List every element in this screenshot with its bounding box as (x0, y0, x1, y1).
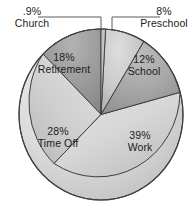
church-label: .9% Church (2, 6, 62, 29)
school-percent: 12% (118, 54, 170, 66)
time-off-label: 28% Time Off (22, 126, 94, 149)
time-off-category: Time Off (22, 138, 94, 150)
church-category: Church (2, 18, 62, 30)
preschool-percent: 8% (134, 6, 194, 18)
time-off-percent: 28% (22, 126, 94, 138)
retirement-percent: 18% (26, 52, 102, 64)
school-category: School (118, 66, 170, 78)
preschool-category: Preschool (134, 18, 194, 30)
retirement-label: 18% Retirement (26, 52, 102, 75)
school-label: 12% School (118, 54, 170, 77)
preschool-label: 8% Preschool (134, 6, 194, 29)
work-category: Work (115, 142, 165, 154)
pie-chart: .9% Church 8% Preschool 18% Retirement 1… (0, 0, 196, 214)
retirement-category: Retirement (26, 64, 102, 76)
work-percent: 39% (115, 130, 165, 142)
church-percent: .9% (2, 6, 62, 18)
pie-chart-graphic (0, 0, 196, 214)
work-label: 39% Work (115, 130, 165, 153)
